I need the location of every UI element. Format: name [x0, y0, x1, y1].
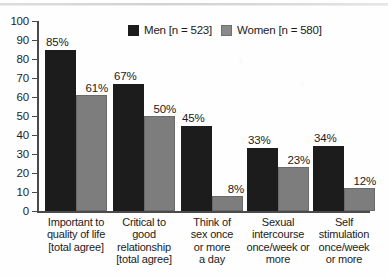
y-axis-tick-label: 90: [17, 34, 29, 46]
bar-group: 67%50%: [113, 21, 175, 211]
bar-value-label: 50%: [154, 103, 176, 115]
bar-group: 85%61%: [45, 21, 107, 211]
y-axis-tick-label: 10: [17, 186, 29, 198]
bar: 23%: [278, 167, 309, 211]
y-axis-tick: [32, 211, 37, 212]
bar-group: 45%8%: [181, 21, 243, 211]
y-axis-tick-label: 30: [17, 148, 29, 160]
y-axis-tick: [32, 59, 37, 60]
y-axis-tick-label: 100: [10, 15, 29, 27]
bar: 33%: [247, 148, 278, 211]
bar: 34%: [313, 146, 344, 211]
bar: 50%: [144, 116, 175, 211]
category-label: Selfstimulationonce/weekor more: [307, 216, 381, 266]
bar-value-label: 23%: [288, 154, 310, 166]
y-axis-tick: [32, 192, 37, 193]
y-axis-tick: [32, 173, 37, 174]
y-axis-tick-label: 40: [17, 129, 29, 141]
bar: 8%: [212, 196, 243, 211]
y-axis-tick-label: 70: [17, 72, 29, 84]
y-axis-tick-label: 20: [17, 167, 29, 179]
bar-chart: Men [n = 523] Women [n = 580] 0102030405…: [0, 0, 388, 278]
y-axis-tick-label: 80: [17, 53, 29, 65]
y-axis-tick-label: 60: [17, 91, 29, 103]
bar-value-label: 67%: [114, 70, 136, 82]
y-axis-tick: [32, 40, 37, 41]
y-axis-tick: [32, 78, 37, 79]
category-label: Important toquality of life[total agree]: [39, 216, 113, 253]
category-label: Critical togoodrelationship[total agree]: [107, 216, 181, 266]
y-axis-tick: [32, 154, 37, 155]
y-axis-tick: [32, 135, 37, 136]
y-axis-line: [37, 21, 39, 212]
bar-value-label: 61%: [86, 82, 108, 94]
y-axis-tick-label: 0: [23, 205, 29, 217]
plot-area: 0102030405060708090100 85%61%67%50%45%8%…: [37, 21, 370, 211]
bar-value-label: 33%: [248, 134, 270, 146]
bar-value-label: 34%: [314, 132, 336, 144]
bar-group: 34%12%: [313, 21, 375, 211]
x-axis-line: [37, 211, 370, 213]
bar: 45%: [181, 126, 212, 212]
category-label: Sexualintercourseonce/week ormore: [241, 216, 315, 266]
bar-group: 33%23%: [247, 21, 309, 211]
category-label: Think ofsex onceor morea day: [175, 216, 249, 266]
bar: 12%: [344, 188, 375, 211]
bar-value-label: 45%: [182, 112, 204, 124]
bar: 67%: [113, 84, 144, 211]
y-axis-tick: [32, 97, 37, 98]
y-axis-tick-label: 50: [17, 110, 29, 122]
bar-value-label: 8%: [228, 183, 244, 195]
y-axis-tick: [32, 116, 37, 117]
bar-value-label: 85%: [46, 36, 68, 48]
bar: 61%: [76, 95, 107, 211]
bar: 85%: [45, 50, 76, 212]
scan-artifact-line-secondary: [0, 5, 388, 6]
bar-value-label: 12%: [354, 175, 376, 187]
y-axis-tick: [32, 21, 37, 22]
